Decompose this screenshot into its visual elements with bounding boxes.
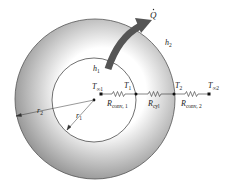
- node-t2: [173, 93, 176, 96]
- node-t1: [135, 93, 138, 96]
- heat-flow-label: Q: [150, 10, 157, 20]
- h2-label: h2: [165, 38, 172, 48]
- cylinder-resistance-diagram: Q h2 h1 T∞1 T1 T2 T∞2 Rconv, 1 Rcyl: [0, 0, 231, 187]
- t-inf2-label: T∞2: [208, 81, 219, 91]
- r-conv2-label: Rconv, 2: [180, 99, 202, 109]
- node-t-inf2: [208, 93, 211, 96]
- t2-label: T2: [175, 81, 182, 91]
- q-dot-accent: [153, 9, 154, 10]
- node-t-inf1: [100, 93, 103, 96]
